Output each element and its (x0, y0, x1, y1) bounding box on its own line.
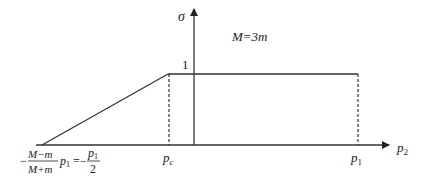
parameter-annotation: M=3m (231, 29, 268, 44)
equals-minus: =− (73, 154, 87, 168)
half-fraction-denominator: 2 (90, 162, 96, 176)
half-fraction-numerator: p1 (87, 146, 98, 161)
pc-label: pc (162, 150, 174, 167)
p1-term: p1 (59, 154, 70, 169)
fraction-denominator: M+m (27, 163, 53, 175)
ramp-segment (42, 74, 168, 145)
fraction-numerator: M−m (27, 148, 53, 160)
x-axis-label: p2 (396, 140, 408, 157)
sigma-vs-p2-diagram: σ M=3m 1 pc p1 p2 − M−m M+m p1 =− p1 2 (0, 0, 425, 181)
plateau-value-label: 1 (182, 57, 189, 72)
y-axis-label: σ (178, 9, 186, 24)
p1-label: p1 (350, 150, 362, 167)
left-endpoint-label: − M−m M+m p1 =− p1 2 (20, 146, 100, 176)
leading-minus: − (20, 154, 27, 168)
